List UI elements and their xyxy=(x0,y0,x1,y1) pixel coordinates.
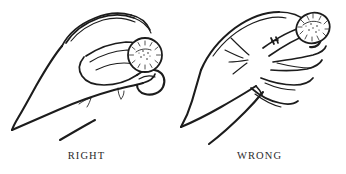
panel-right: RIGHT xyxy=(0,0,173,174)
emphasis-marks xyxy=(225,38,249,74)
caption-right: RIGHT xyxy=(0,150,173,161)
illustration-canvas: RIGHT xyxy=(0,0,346,174)
emphasis-marks-secondary xyxy=(271,37,278,44)
hand-figure-wrong xyxy=(173,0,346,148)
coin-wrong xyxy=(292,8,335,49)
caption-wrong: WRONG xyxy=(173,150,346,161)
hand-figure-right xyxy=(0,0,173,148)
panel-wrong: WRONG xyxy=(173,0,346,174)
coin-right xyxy=(128,38,162,72)
